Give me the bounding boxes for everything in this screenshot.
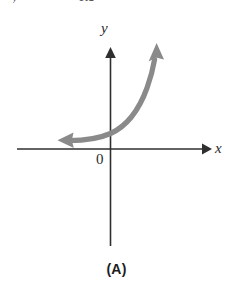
figure-panel: y 0.5 y x 0 (A) [0,0,233,284]
y-axis-label: y [101,21,108,36]
origin-label: 0 [96,152,104,167]
x-axis [17,143,212,154]
figure-caption: (A) [0,261,233,277]
x-axis-label: x [215,141,222,156]
x-axis-arrowhead-icon [202,143,212,154]
y-axis-arrowhead-icon [105,47,116,58]
y-axis [105,47,116,246]
coordinate-plane-graph [0,0,233,284]
curve-left-arrowhead-icon [58,133,74,148]
